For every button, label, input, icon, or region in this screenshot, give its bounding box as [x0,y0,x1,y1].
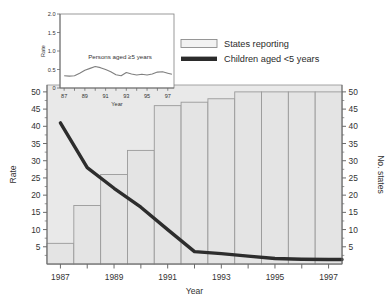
inset-y-tick-label-1.0: 1.0 [48,48,56,54]
inset-x-tick-label-97: 97 [165,93,171,99]
bar-1996[interactable] [288,92,315,264]
inset-plot-background [60,14,174,88]
inset-x-tick-label-87: 87 [61,93,67,99]
left-axis-tick-label-50: 50 [31,87,41,97]
x-axis-tick-label-1993: 1993 [212,272,231,282]
inset-y-tick-label-1.5: 1.5 [48,30,56,36]
right-axis-tick-label-45: 45 [349,104,359,114]
x-axis-tick-label-1987: 1987 [51,272,70,282]
inset-x-tick-label-95: 95 [144,93,150,99]
bar-1988[interactable] [74,205,101,264]
bar-1995[interactable] [262,92,289,264]
inset-x-tick-label-89: 89 [82,93,88,99]
inset-y-tick-label-2.0: 2.0 [48,11,56,17]
combined-bar-line-chart: 5101520253035404550Rate51015202530354045… [0,0,389,300]
left-axis-tick-label-45: 45 [31,104,41,114]
bar-1993[interactable] [208,99,235,264]
right-axis-tick-label-35: 35 [349,139,359,149]
left-axis-tick-label-25: 25 [31,173,41,183]
right-axis-tick-label-25: 25 [349,173,359,183]
x-axis-tick-label-1991: 1991 [158,272,177,282]
bar-1992[interactable] [181,102,208,264]
bar-1997[interactable] [315,92,342,264]
left-axis-tick-label-5: 5 [36,242,41,252]
inset-x-tick-label-93: 93 [123,93,129,99]
inset-x-tick-label-91: 91 [102,93,108,99]
inset-x-axis-title: Year [111,101,122,107]
x-axis-tick-label-1997: 1997 [319,272,338,282]
chart-figure: 5101520253035404550Rate51015202530354045… [0,0,389,300]
bar-1991[interactable] [154,106,181,264]
x-axis-tick-label-1995: 1995 [266,272,285,282]
right-axis-tick-label-50: 50 [349,87,359,97]
right-axis-tick-label-10: 10 [349,225,359,235]
x-axis-title: Year [186,286,204,296]
x-axis-tick-label-1989: 1989 [105,272,124,282]
left-axis-tick-label-15: 15 [31,207,41,217]
left-axis-tick-label-40: 40 [31,121,41,131]
legend-swatch-states-reporting [181,40,217,48]
inset-y-tick-label-0: 0 [52,85,55,91]
left-axis-tick-label-30: 30 [31,156,41,166]
left-axis-tick-label-10: 10 [31,225,41,235]
left-axis-tick-label-35: 35 [31,139,41,149]
right-axis-tick-label-20: 20 [349,190,359,200]
left-axis-tick-label-20: 20 [31,190,41,200]
legend-label-children-under-5: Children aged <5 years [224,54,320,64]
bar-1994[interactable] [235,92,262,264]
right-axis-tick-label-30: 30 [349,156,359,166]
right-axis-tick-label-5: 5 [349,242,354,252]
legend-swatch-children-line [181,57,217,61]
left-axis-title: Rate [8,165,18,183]
inset-y-tick-label-0.5: 0.5 [48,67,56,73]
bar-1987[interactable] [47,243,74,264]
right-axis-tick-label-15: 15 [349,207,359,217]
right-axis-title: No. states [376,155,386,194]
legend-label-states-reporting: States reporting [224,39,289,49]
inset-annotation-persons-over-5: Persons aged ≥5 years [88,53,152,60]
right-axis-tick-label-40: 40 [349,121,359,131]
inset-y-axis-title: Rate [40,45,46,57]
